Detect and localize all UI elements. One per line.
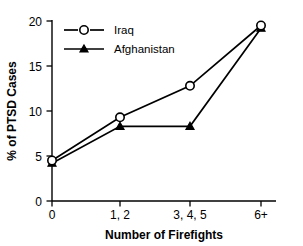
- x-tick-label-0: 0: [49, 208, 56, 222]
- x-tick-label-2: 3, 4, 5: [173, 208, 207, 222]
- chart-figure: 0 5 10 15 20 % of PTSD Cases 0 1, 2 3, 4…: [0, 0, 303, 246]
- x-tick-label-3: 6+: [254, 208, 268, 222]
- legend-label-afghanistan: Afghanistan: [114, 43, 175, 55]
- y-tick-label-10: 10: [29, 105, 43, 119]
- open-circle-marker-icon: [80, 26, 88, 34]
- y-tick-label-0: 0: [35, 195, 42, 209]
- ptsd-firefights-line-chart: 0 5 10 15 20 % of PTSD Cases 0 1, 2 3, 4…: [0, 0, 303, 246]
- iraq-marker-3: [257, 21, 265, 29]
- x-tick-label-1: 1, 2: [110, 208, 130, 222]
- y-axis-title: % of PTSD Cases: [5, 61, 19, 161]
- x-axis-title: Number of Firefights: [105, 228, 223, 242]
- iraq-marker-0: [48, 156, 56, 164]
- y-tick-label-20: 20: [29, 15, 43, 29]
- y-tick-label-5: 5: [35, 150, 42, 164]
- y-tick-label-15: 15: [29, 60, 43, 74]
- iraq-marker-1: [116, 113, 124, 121]
- iraq-marker-2: [186, 82, 194, 90]
- legend-label-iraq: Iraq: [114, 24, 134, 36]
